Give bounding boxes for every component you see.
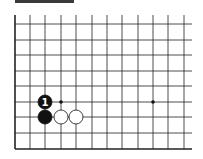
- black-stone: [38, 110, 52, 124]
- star-point: [59, 100, 63, 104]
- white-stone: [69, 110, 83, 124]
- move-number-label: 1: [42, 97, 49, 108]
- white-stone: [54, 110, 68, 124]
- go-board: 1: [0, 0, 203, 159]
- star-point: [151, 100, 155, 104]
